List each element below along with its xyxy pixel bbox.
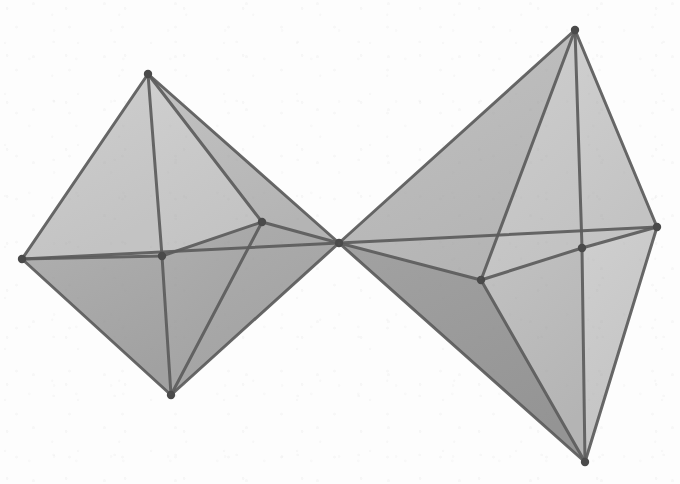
vertex-bottom-apex <box>581 458 589 466</box>
vertex-shared-vertex <box>335 239 343 247</box>
vertex-top-apex <box>571 26 579 34</box>
vertex-near-equator <box>258 218 266 226</box>
vertex-far-equator <box>158 252 166 260</box>
vertex-near-equator <box>477 276 485 284</box>
vertex-bottom-apex <box>167 391 175 399</box>
figure-canvas <box>0 0 680 484</box>
right-octahedron-faces <box>339 30 657 462</box>
left-octahedron-upper-left-face <box>22 74 162 259</box>
vertex-right-equator <box>653 223 661 231</box>
vertex-far-equator <box>578 244 586 252</box>
octahedra-pair-drawing <box>0 0 680 484</box>
vertex-left-equator <box>18 255 26 263</box>
vertex-top-apex <box>144 70 152 78</box>
left-octahedron-faces <box>22 74 339 395</box>
